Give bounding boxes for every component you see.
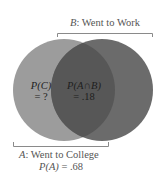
region-c-value: = ? [26, 91, 56, 102]
label-set-a: A: Went to College [19, 150, 99, 161]
set-a-text: : Went to College [25, 149, 98, 160]
intersection-label: P(A∩B) = .18 [62, 80, 106, 102]
set-b-text: : Went to Work [76, 17, 140, 28]
region-c-label: P(C) = ? [26, 80, 56, 102]
intersection-value: = .18 [62, 91, 106, 102]
bracket-b [58, 34, 153, 38]
p-a-expr: P(A) [39, 161, 59, 172]
intersection-expr: P(A∩B) [62, 80, 106, 91]
bracket-a [14, 142, 109, 147]
region-c-expr: P(C) [26, 80, 56, 91]
label-set-b: B: Went to Work [70, 18, 140, 29]
p-a-value: = .68 [59, 161, 83, 172]
label-p-a: P(A) = .68 [39, 162, 83, 172]
